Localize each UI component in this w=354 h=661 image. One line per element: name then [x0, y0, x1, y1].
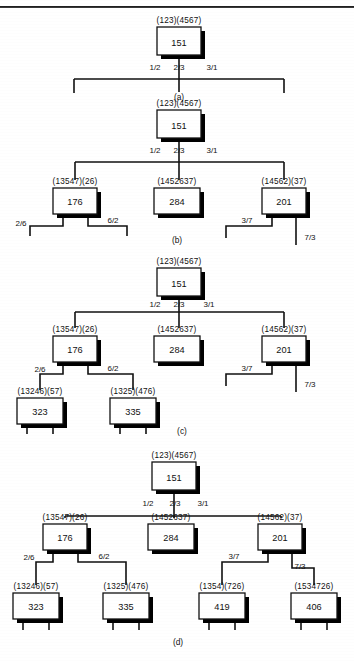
tree-node-permutation-label: (123)(4567)	[152, 451, 197, 460]
panel-b: (123)(4567) 151 (13547)(26) 176 (1452637…	[15, 99, 316, 245]
tree-node[interactable]: (14562)(37) 201	[262, 177, 310, 218]
tree-node-permutation-label: (14562)(37)	[262, 177, 307, 186]
panel-a-connectors	[74, 55, 284, 93]
edge-label: 1/2	[149, 63, 161, 72]
tree-node[interactable]: (13547)(26) 176	[53, 325, 101, 366]
tree-node[interactable]: (13547)(26) 176	[53, 177, 101, 218]
edge-label: 7/3	[294, 562, 306, 571]
edge-label: 3/7	[228, 552, 240, 561]
edge-label: 2/6	[23, 553, 35, 562]
tree-node-permutation-label: (13246)(57)	[14, 582, 59, 591]
tree-node-permutation-label: (14562)(37)	[262, 325, 307, 334]
tree-node-bound-value: 151	[171, 38, 186, 48]
tree-node-bound-value: 201	[276, 345, 291, 355]
tree-node-permutation-label: (1325)(476)	[104, 582, 149, 591]
edge-label: 3/1	[206, 63, 218, 72]
edge-label: 2/3	[169, 499, 181, 508]
tree-node[interactable]: (13246)(57) 323	[13, 582, 63, 623]
tree-node-bound-value: 419	[214, 602, 229, 612]
tree-node[interactable]: (123)(4567) 151	[157, 16, 205, 59]
tree-node[interactable]: (1354)(726) 419	[199, 582, 249, 623]
tree-node-permutation-label: (13547)(26)	[53, 325, 98, 334]
tree-node[interactable]: (1452637) 284	[148, 513, 198, 554]
tree-node-bound-value: 323	[32, 407, 47, 417]
panel-d-connectors	[23, 490, 327, 630]
tree-node-permutation-label: (13547)(26)	[43, 513, 88, 522]
tree-node-bound-value: 335	[125, 407, 140, 417]
tree-node-permutation-label: (1452637)	[157, 325, 196, 334]
tree-node-bound-value: 176	[67, 197, 82, 207]
tree-node[interactable]: (1325)(476) 335	[110, 387, 160, 428]
tree-node[interactable]: (1452637) 284	[154, 325, 204, 366]
edge-label: 7/3	[304, 380, 316, 389]
panel-caption: (b)	[172, 235, 182, 245]
tree-node-bound-value: 284	[169, 345, 184, 355]
panel-d: (123)(4567) 151 (13547)(26) 176 (1452637…	[13, 451, 341, 647]
tree-node[interactable]: (14562)(37) 201	[262, 325, 310, 366]
edge-label: 6/2	[107, 216, 119, 225]
panel-caption: (d)	[173, 637, 183, 647]
tree-node-bound-value: 323	[28, 602, 43, 612]
tree-node-bound-value: 406	[306, 602, 321, 612]
tree-node-bound-value: 151	[171, 279, 186, 289]
edge-label: 2/6	[34, 365, 46, 374]
tree-node-bound-value: 284	[169, 197, 184, 207]
tree-node-permutation-label: (1452637)	[151, 513, 190, 522]
tree-node-bound-value: 151	[166, 473, 181, 483]
tree-node-permutation-label: (1325)(476)	[111, 387, 156, 396]
tree-node-bound-value: 176	[67, 345, 82, 355]
tree-node-bound-value: 201	[276, 197, 291, 207]
figure-search-tree-stages: (123)(4567) 151 1/2 2/3 3/1 (a)	[0, 0, 354, 661]
tree-node[interactable]: (123)(4567) 151	[157, 257, 205, 300]
tree-node-permutation-label: (14562)(37)	[258, 513, 303, 522]
edge-label: 7/3	[304, 233, 316, 242]
tree-node-permutation-label: (1452637)	[157, 177, 196, 186]
edge-label: 1/2	[142, 499, 154, 508]
tree-node-bound-value: 335	[118, 602, 133, 612]
edge-label: 2/3	[173, 63, 185, 72]
tree-node-permutation-label: (13246)(57)	[18, 387, 63, 396]
tree-node[interactable]: (123)(4567) 151	[152, 451, 200, 494]
panel-a: (123)(4567) 151 1/2 2/3 3/1 (a)	[74, 16, 284, 102]
tree-node-bound-value: 201	[272, 533, 287, 543]
tree-node-permutation-label: (1534726)	[294, 582, 333, 591]
tree-node[interactable]: (1325)(476) 335	[103, 582, 153, 623]
tree-node[interactable]: (13246)(57) 323	[17, 387, 67, 428]
edge-label: 2/6	[15, 219, 27, 228]
tree-node-permutation-label: (123)(4567)	[157, 99, 202, 108]
tree-diagram-canvas: (123)(4567) 151 1/2 2/3 3/1 (a)	[0, 0, 354, 661]
edge-label: 3/1	[206, 146, 218, 155]
panel-caption: (c)	[177, 426, 187, 436]
edge-label: 3/1	[203, 300, 215, 309]
tree-node[interactable]: (13547)(26) 176	[43, 513, 91, 554]
tree-node-permutation-label: (123)(4567)	[157, 257, 202, 266]
tree-node-bound-value: 151	[171, 121, 186, 131]
edge-label: 3/7	[241, 216, 253, 225]
edge-label: 3/7	[241, 364, 253, 373]
edge-label: 2/3	[173, 146, 185, 155]
tree-node-permutation-label: (1354)(726)	[200, 582, 245, 591]
edge-label: 1/2	[149, 300, 161, 309]
edge-label: 1/2	[149, 146, 161, 155]
edge-label: 3/1	[197, 499, 209, 508]
tree-node[interactable]: (1452637) 284	[154, 177, 204, 218]
tree-node-bound-value: 284	[163, 533, 178, 543]
tree-node[interactable]: (1534726) 406	[291, 582, 341, 623]
panel-c: (123)(4567) 151 (13547)(26) 176 (1452637…	[17, 257, 316, 436]
tree-node-bound-value: 176	[57, 533, 72, 543]
tree-node[interactable]: (123)(4567) 151	[157, 99, 205, 142]
edge-label: 2/3	[173, 300, 185, 309]
page-top-rule	[0, 6, 354, 8]
tree-node[interactable]: (14562)(37) 201	[258, 513, 306, 554]
tree-node-permutation-label: (123)(4567)	[157, 16, 202, 25]
edge-label: 6/2	[98, 552, 110, 561]
tree-node-permutation-label: (13547)(26)	[53, 177, 98, 186]
edge-label: 6/2	[107, 364, 119, 373]
